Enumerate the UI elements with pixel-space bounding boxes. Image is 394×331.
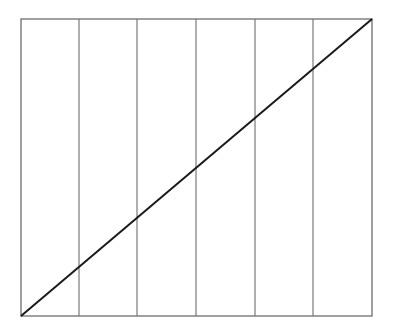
grid-diagram — [0, 0, 394, 331]
